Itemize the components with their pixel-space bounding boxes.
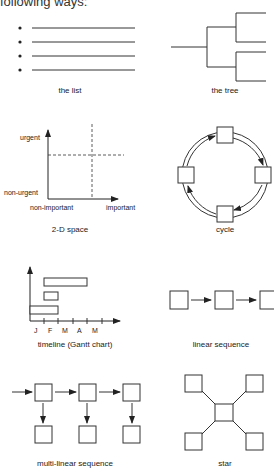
caption-list: the list bbox=[5, 86, 135, 95]
multilinear-sequence-diagram bbox=[12, 384, 140, 443]
caption-multilinear-sequence: multi-linear sequence bbox=[10, 459, 140, 468]
caption-2d-space: 2-D space bbox=[5, 225, 135, 234]
y-axis-bottom-label: non-urgent bbox=[4, 189, 38, 197]
tree-diagram bbox=[171, 13, 266, 81]
x-axis-left-label: non-important bbox=[30, 204, 73, 212]
space-2d-diagram: urgent non-urgent non-important importan… bbox=[4, 124, 135, 212]
caption-cycle: cycle bbox=[160, 225, 274, 234]
list-diagram bbox=[18, 26, 135, 71]
gantt-diagram: J F M A M bbox=[30, 267, 120, 334]
cycle-diagram bbox=[178, 127, 271, 222]
y-axis-top-label: urgent bbox=[20, 134, 40, 142]
month-label: F bbox=[48, 327, 52, 334]
month-label: M bbox=[62, 327, 68, 334]
caption-tree: the tree bbox=[160, 86, 274, 95]
month-label: M bbox=[92, 327, 98, 334]
caption-gantt: timeline (Gantt chart) bbox=[10, 340, 140, 349]
diagram-canvas: urgent non-urgent non-important importan… bbox=[0, 0, 274, 475]
caption-star: star bbox=[160, 459, 274, 468]
linear-sequence-diagram bbox=[170, 291, 274, 309]
x-axis-right-label: important bbox=[106, 204, 135, 212]
star-diagram bbox=[185, 375, 263, 450]
month-label: A bbox=[77, 327, 82, 334]
month-label: J bbox=[34, 327, 38, 334]
caption-linear-sequence: linear sequence bbox=[156, 340, 274, 349]
